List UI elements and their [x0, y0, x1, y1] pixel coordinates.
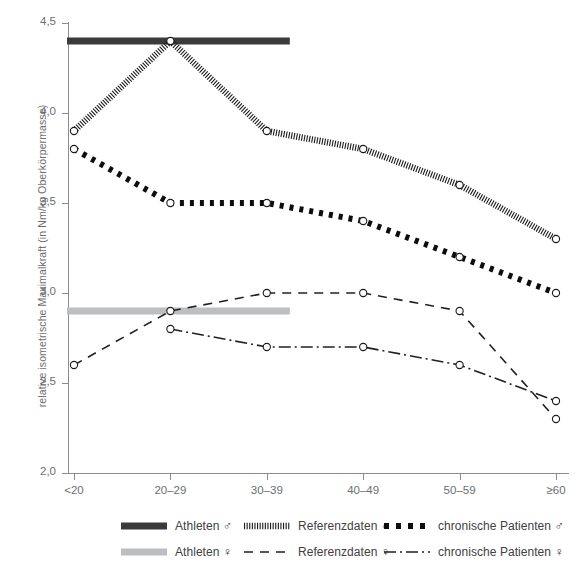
data-point-marker	[263, 343, 270, 350]
legend-item-referenzdaten-male[interactable]: Referenzdaten ♂	[243, 515, 390, 537]
data-point-marker	[263, 199, 270, 206]
chart-container: relative isometrische Maximalkraft (in N…	[0, 0, 587, 574]
legend-item-athleten-male[interactable]: Athleten ♂	[120, 515, 232, 537]
data-point-marker	[360, 343, 367, 350]
chart-legend: Athleten ♂Referenzdaten ♂chronische Pati…	[0, 515, 587, 567]
sex-symbol-icon: ♀	[223, 545, 232, 559]
data-point-marker	[456, 361, 463, 368]
legend-label: Referenzdaten ♂	[298, 519, 390, 533]
legend-swatch-icon	[120, 519, 168, 533]
data-point-marker	[70, 361, 77, 368]
legend-label: chronische Patienten ♀	[438, 545, 564, 559]
data-point-marker	[456, 307, 463, 314]
data-point-marker	[167, 199, 174, 206]
legend-label: chronische Patienten ♂	[438, 519, 564, 533]
legend-row: Athleten ♂Referenzdaten ♂chronische Pati…	[0, 515, 587, 537]
data-point-marker	[456, 253, 463, 260]
legend-label: Referenzdaten ♀	[298, 545, 390, 559]
data-point-marker	[263, 289, 270, 296]
series-chronische-patienten-♀	[167, 325, 560, 404]
legend-item-referenzdaten-female[interactable]: Referenzdaten ♀	[243, 541, 390, 563]
data-point-marker	[552, 415, 559, 422]
series-line	[74, 41, 556, 239]
sex-symbol-icon: ♀	[554, 545, 563, 559]
legend-row: Athleten ♀Referenzdaten ♀chronische Pati…	[0, 541, 587, 563]
sex-symbol-icon: ♂	[554, 519, 563, 533]
legend-item-athleten-female[interactable]: Athleten ♀	[120, 541, 232, 563]
data-point-marker	[167, 325, 174, 332]
legend-swatch-icon	[243, 519, 291, 533]
data-point-marker	[360, 217, 367, 224]
data-point-marker	[167, 37, 174, 44]
data-point-marker	[456, 181, 463, 188]
data-point-marker	[70, 127, 77, 134]
data-point-marker	[167, 307, 174, 314]
data-point-marker	[552, 289, 559, 296]
legend-swatch-icon	[383, 519, 431, 533]
sex-symbol-icon: ♂	[223, 519, 232, 533]
legend-swatch-icon	[120, 545, 168, 559]
legend-swatch-icon	[383, 545, 431, 559]
data-point-marker	[263, 127, 270, 134]
legend-swatch-icon	[243, 545, 291, 559]
data-point-marker	[360, 289, 367, 296]
series-line	[170, 329, 556, 401]
series-line	[74, 149, 556, 293]
legend-label: Athleten ♀	[175, 545, 232, 559]
series-chronische-patienten-♂	[70, 145, 559, 296]
plot-area	[0, 0, 587, 574]
legend-label: Athleten ♂	[175, 519, 232, 533]
legend-item-chronische-patienten-male[interactable]: chronische Patienten ♂	[383, 515, 564, 537]
data-point-marker	[552, 235, 559, 242]
data-point-marker	[360, 145, 367, 152]
legend-item-chronische-patienten-female[interactable]: chronische Patienten ♀	[383, 541, 564, 563]
data-point-marker	[552, 397, 559, 404]
series-referenzdaten-♂	[70, 37, 559, 242]
data-point-marker	[70, 145, 77, 152]
